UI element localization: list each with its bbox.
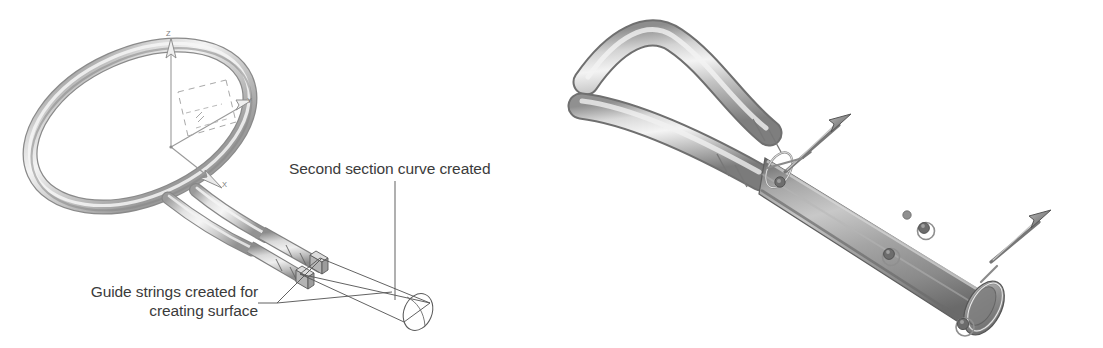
cad-figure: Z Y X Second section curve created Guide…	[0, 0, 1103, 348]
axis-label-z: Z	[166, 29, 171, 38]
direction-arrow-1	[767, 114, 851, 172]
grip-marker	[918, 223, 935, 240]
annotation-guide-strings-line2: creating surface	[149, 302, 258, 319]
direction-arrow-2	[981, 210, 1051, 282]
origin-ticks	[196, 112, 204, 122]
arrow-head	[829, 114, 851, 132]
annotation-second-section-curve: Second section curve created	[289, 159, 490, 178]
datum-plane-inner	[186, 104, 230, 128]
handle-sweep-svg	[553, 0, 1103, 348]
annotation-guide-strings: Guide strings created for creating surfa…	[66, 282, 258, 320]
axis-label-y: Y	[247, 96, 252, 105]
racket-throat-tubes	[168, 188, 266, 250]
arrow-head	[1029, 210, 1051, 228]
grip-marker-small	[903, 211, 911, 219]
handle-swept-cylinder	[759, 158, 997, 330]
origin-marker	[169, 145, 172, 148]
panel-handle-sweep-render	[553, 0, 1103, 348]
panel-racket-wireframe-view: Z Y X Second section curve created Guide…	[0, 0, 553, 348]
annotation-guide-strings-line1: Guide strings created for	[91, 283, 258, 300]
axis-label-x: X	[222, 180, 227, 189]
racket-head-ring	[4, 11, 277, 242]
